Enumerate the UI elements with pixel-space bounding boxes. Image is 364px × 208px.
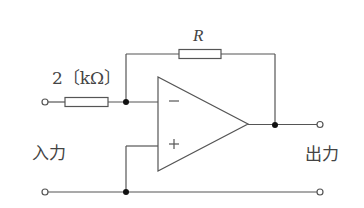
- output-terminal-bottom: [317, 189, 323, 195]
- input-label: 入力: [32, 145, 66, 162]
- input-terminal-top: [42, 99, 48, 105]
- input-resistor-label: 2〔kΩ〕: [52, 70, 121, 87]
- junction-node-ground: [123, 189, 129, 195]
- feedback-wire: [126, 54, 275, 125]
- noninverting-wire: [126, 146, 158, 192]
- circuit-diagram: [0, 0, 364, 208]
- feedback-resistor: [179, 50, 221, 59]
- feedback-resistor-label: R: [193, 27, 203, 44]
- input-terminal-bottom: [42, 189, 48, 195]
- junction-node-input: [123, 99, 129, 105]
- output-terminal-top: [317, 122, 323, 128]
- input-resistor: [65, 98, 108, 107]
- opamp-triangle: [158, 77, 248, 171]
- opamp-plus-sign: [169, 139, 179, 149]
- output-label: 出力: [305, 146, 339, 163]
- junction-node-output: [272, 122, 278, 128]
